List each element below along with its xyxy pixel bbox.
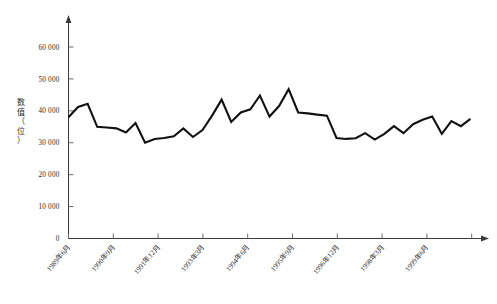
x-tick-label: 1994年6月 (224, 243, 251, 273)
y-tick-group (69, 47, 74, 207)
x-tick-group (69, 234, 472, 239)
x-tick-label: 1996年12月 (311, 243, 341, 276)
x-tick-label-group: 1989年6月1990年9月1991年12月1993年3月1994年6月1995… (45, 243, 431, 276)
y-tick-label: 40 000 (39, 107, 60, 115)
x-tick-label: 1995年9月 (269, 243, 296, 273)
y-axis-title: 数值（位） (17, 97, 25, 145)
y-axis (66, 15, 72, 239)
data-series-line (69, 89, 471, 143)
line-chart: 010 00020 00030 00040 00050 00060 000 19… (0, 0, 497, 304)
y-axis-title-char: ） (17, 136, 25, 145)
y-axis-arrow (66, 15, 72, 23)
x-tick-label: 1999年6月 (403, 243, 430, 273)
y-tick-label: 30 000 (39, 139, 60, 147)
x-tick-label: 1990年9月 (89, 243, 116, 273)
x-tick-label: 1993年3月 (179, 243, 206, 273)
x-axis-arrow (481, 236, 489, 242)
x-axis (69, 236, 490, 242)
y-axis-title-char: （ (17, 117, 25, 126)
y-axis-title-char: 数 (17, 97, 25, 107)
y-tick-label-group: 010 00020 00030 00040 00050 00060 000 (39, 44, 60, 244)
y-tick-label: 0 (56, 235, 60, 243)
y-tick-label: 50 000 (39, 76, 60, 84)
y-tick-label: 10 000 (39, 203, 60, 211)
y-axis-title-char: 位 (17, 126, 25, 136)
chart-canvas: 010 00020 00030 00040 00050 00060 000 19… (0, 0, 497, 304)
x-tick-label: 1991年12月 (132, 243, 162, 276)
y-tick-label: 20 000 (39, 171, 60, 179)
x-tick-label: 1998年3月 (358, 243, 385, 273)
x-tick-label: 1989年6月 (45, 243, 72, 273)
y-axis-title-char: 值 (17, 107, 25, 117)
y-tick-label: 60 000 (39, 44, 60, 52)
